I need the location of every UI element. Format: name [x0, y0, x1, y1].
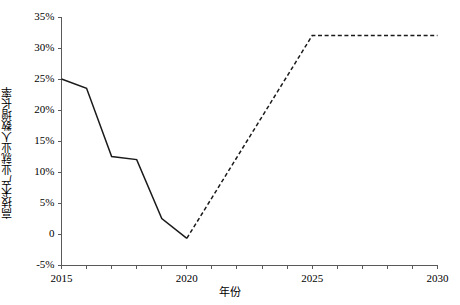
y-axis-tick-label: 30%: [34, 42, 54, 53]
y-axis-ticks: [58, 17, 62, 265]
chart-container: 35%30%25%20%15%10%5%0-5% 201520202025203…: [0, 0, 460, 305]
y-axis-title-label: 高技术产业就业人数增长率: [0, 87, 16, 219]
x-axis-ticks: [62, 265, 438, 269]
y-axis-tick-label: 0: [49, 228, 55, 239]
data-series-lines: [62, 36, 438, 239]
y-axis-tick-label: 5%: [40, 197, 55, 208]
y-axis-tick-label: 35%: [34, 11, 54, 22]
series-line-1: [62, 79, 187, 238]
y-axis-tick-label: 25%: [34, 73, 54, 84]
chart-plot-area: [0, 0, 460, 305]
y-axis-title: 高技术产业就业人数增长率: [0, 0, 16, 305]
x-axis-title: 年份: [0, 282, 460, 300]
y-axis-tick-label: -5%: [36, 259, 54, 270]
y-axis-tick-label: 20%: [34, 104, 54, 115]
y-axis-tick-label: 10%: [34, 166, 54, 177]
axis-lines: [62, 17, 438, 265]
y-axis-tick-label: 15%: [34, 135, 54, 146]
series-line-2: [187, 36, 438, 239]
x-axis-title-label: 年份: [219, 286, 241, 299]
